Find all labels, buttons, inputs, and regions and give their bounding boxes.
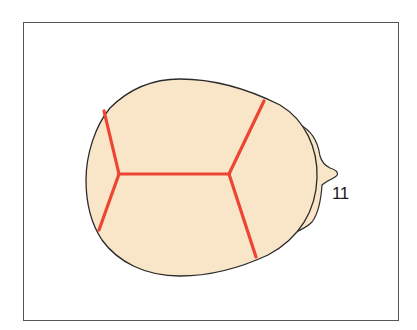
label-11: 11 [332, 184, 349, 204]
skull-outline [86, 79, 317, 276]
skull-diagram [0, 0, 417, 330]
